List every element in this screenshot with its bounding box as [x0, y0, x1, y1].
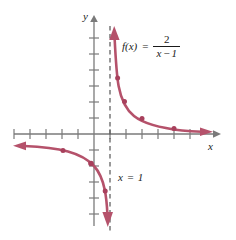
- fraction: 2 x−1: [153, 34, 180, 59]
- equals-sign: =: [142, 41, 148, 52]
- function-graph-figure: y x x = 1 f(x) = 2 x−1: [0, 0, 236, 240]
- denominator-constant: 1: [172, 47, 178, 59]
- y-axis: [90, 15, 98, 226]
- x-axis-label: x: [208, 141, 213, 152]
- fraction-denominator: x−1: [153, 47, 180, 59]
- plot-canvas: [0, 0, 236, 240]
- denominator-operator: −: [163, 47, 169, 59]
- y-axis-label: y: [83, 11, 88, 22]
- fraction-numerator: 2: [159, 34, 175, 46]
- function-name: f(x): [122, 41, 137, 52]
- denominator-variable: x: [156, 47, 161, 59]
- function-equation-label: f(x) = 2 x−1: [122, 34, 180, 59]
- asymptote-label: x = 1: [118, 172, 144, 183]
